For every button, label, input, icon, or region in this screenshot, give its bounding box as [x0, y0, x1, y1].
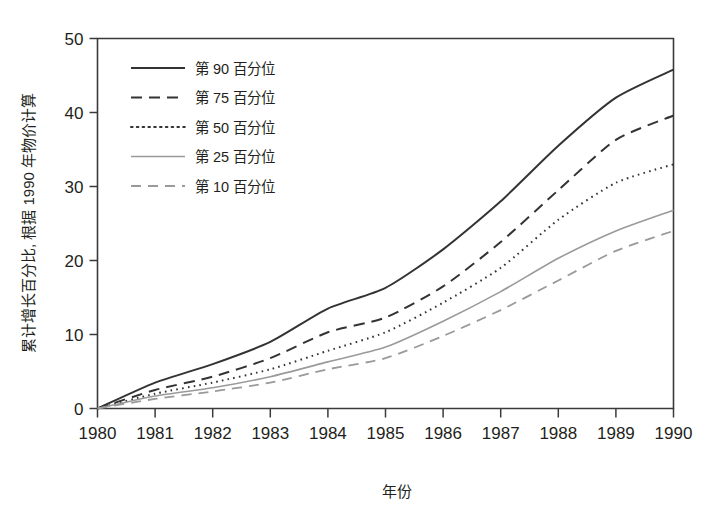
x-tick-label: 1983 — [251, 424, 289, 443]
series-layer — [98, 70, 674, 409]
legend-label-4: 第 10 百分位 — [195, 178, 275, 195]
series-line-2 — [98, 164, 674, 408]
x-tick-label: 1986 — [424, 424, 462, 443]
x-tick-label: 1984 — [309, 424, 347, 443]
series-line-4 — [98, 231, 674, 409]
x-tick-label: 1990 — [655, 424, 693, 443]
chart-legend: 第 90 百分位第 75 百分位第 50 百分位第 25 百分位第 10 百分位 — [131, 60, 275, 195]
legend-label-1: 第 75 百分位 — [195, 89, 275, 106]
y-tick-label: 20 — [65, 252, 84, 271]
plot-frame — [98, 39, 674, 409]
legend-label-0: 第 90 百分位 — [195, 60, 275, 77]
x-tick-label: 1988 — [539, 424, 577, 443]
x-tick-label: 1989 — [597, 424, 635, 443]
y-axis: 01020304050 — [65, 30, 98, 419]
legend-label-3: 第 25 百分位 — [195, 148, 275, 165]
y-tick-label: 10 — [65, 326, 84, 345]
x-tick-label: 1985 — [367, 424, 405, 443]
x-axis-title: 年份 — [382, 483, 412, 500]
chart-container: 01020304050 1980198119821983198419851986… — [0, 0, 706, 528]
x-tick-label: 1987 — [482, 424, 520, 443]
y-axis-title: 累计增长百分比, 根据 1990 年物价计算 — [20, 93, 37, 353]
y-tick-label: 40 — [65, 104, 84, 123]
series-line-3 — [98, 210, 674, 408]
y-tick-label: 50 — [65, 30, 84, 49]
x-tick-label: 1980 — [79, 424, 117, 443]
x-tick-label: 1982 — [194, 424, 232, 443]
y-tick-label: 30 — [65, 178, 84, 197]
x-axis: 1980198119821983198419851986198719881989… — [79, 409, 693, 443]
y-tick-label: 0 — [74, 400, 83, 419]
series-line-1 — [98, 115, 674, 408]
legend-label-2: 第 50 百分位 — [195, 119, 275, 136]
line-chart-figure: 01020304050 1980198119821983198419851986… — [0, 0, 706, 528]
x-tick-label: 1981 — [136, 424, 174, 443]
